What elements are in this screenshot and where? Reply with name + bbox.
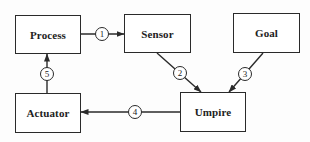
edge-number-3: 3 xyxy=(238,67,252,81)
umpire-box: Umpire xyxy=(180,92,246,132)
edge-number-2: 2 xyxy=(173,66,187,80)
actuator-label: Actuator xyxy=(27,107,70,119)
process-box: Process xyxy=(15,15,81,54)
umpire-label: Umpire xyxy=(195,106,231,118)
edge-number-5: 5 xyxy=(40,67,54,81)
control-loop-diagram: Process Sensor Goal Actuator Umpire 1 2 … xyxy=(0,0,310,142)
process-label: Process xyxy=(30,29,66,41)
sensor-box: Sensor xyxy=(124,14,191,53)
edge-number-1: 1 xyxy=(95,27,109,41)
actuator-box: Actuator xyxy=(15,93,81,133)
edge-number-4: 4 xyxy=(128,105,142,119)
sensor-label: Sensor xyxy=(141,28,173,40)
goal-label: Goal xyxy=(255,27,278,39)
goal-box: Goal xyxy=(233,13,300,53)
